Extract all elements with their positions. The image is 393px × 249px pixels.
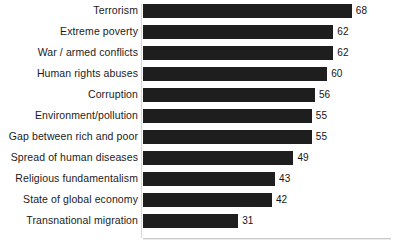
bar-value-label: 55 — [316, 132, 327, 142]
bar — [143, 46, 333, 60]
bar-track: 49 — [138, 147, 393, 168]
bar-value-label: 68 — [356, 6, 367, 16]
x-axis-line-shadow — [143, 239, 391, 240]
bar-track: 31 — [138, 210, 393, 231]
bar — [143, 151, 293, 165]
bar-rows-container: Terrorism68Extreme poverty62War / armed … — [0, 0, 393, 231]
bar-row: Spread of human diseases49 — [0, 147, 393, 168]
bar-value-label: 31 — [242, 216, 253, 226]
bar-row: Extreme poverty62 — [0, 21, 393, 42]
category-label: Spread of human diseases — [0, 152, 138, 163]
bar-value-label: 62 — [337, 48, 348, 58]
bar — [143, 130, 312, 144]
bar-row: Corruption56 — [0, 84, 393, 105]
bar-track: 55 — [138, 105, 393, 126]
bar-value-label: 56 — [319, 90, 330, 100]
bar-track: 42 — [138, 189, 393, 210]
bar — [143, 214, 238, 228]
bar-row: Environment/pollution55 — [0, 105, 393, 126]
category-label: Extreme poverty — [0, 26, 138, 37]
bar — [143, 88, 315, 102]
bar-row: State of global economy42 — [0, 189, 393, 210]
category-label: Human rights abuses — [0, 68, 138, 79]
bar-row: Terrorism68 — [0, 0, 393, 21]
bar — [143, 193, 272, 207]
bar-row: War / armed conflicts62 — [0, 42, 393, 63]
category-label: Gap between rich and poor — [0, 131, 138, 142]
category-label: Corruption — [0, 89, 138, 100]
bar-value-label: 42 — [276, 195, 287, 205]
category-label: State of global economy — [0, 194, 138, 205]
bar — [143, 67, 327, 81]
category-label: Transnational migration — [0, 215, 138, 226]
bar-track: 55 — [138, 126, 393, 147]
bar-value-label: 62 — [337, 27, 348, 37]
bar-value-label: 60 — [331, 69, 342, 79]
bar-track: 62 — [138, 21, 393, 42]
bar-row: Human rights abuses60 — [0, 63, 393, 84]
bar — [143, 25, 333, 39]
category-label: War / armed conflicts — [0, 47, 138, 58]
bar-track: 68 — [138, 0, 393, 21]
category-label: Terrorism — [0, 5, 138, 16]
bar-value-label: 49 — [297, 153, 308, 163]
bar-value-label: 55 — [316, 111, 327, 121]
bar-chart: Terrorism68Extreme poverty62War / armed … — [0, 0, 393, 249]
bar-row: Religious fundamentalism43 — [0, 168, 393, 189]
bar-track: 62 — [138, 42, 393, 63]
bar-track: 60 — [138, 63, 393, 84]
category-label: Environment/pollution — [0, 110, 138, 121]
bar-track: 43 — [138, 168, 393, 189]
bar-track: 56 — [138, 84, 393, 105]
bar-row: Gap between rich and poor55 — [0, 126, 393, 147]
bar-row: Transnational migration31 — [0, 210, 393, 231]
bar — [143, 4, 352, 18]
bar-value-label: 43 — [279, 174, 290, 184]
category-label: Religious fundamentalism — [0, 173, 138, 184]
bar — [143, 172, 275, 186]
bar — [143, 109, 312, 123]
